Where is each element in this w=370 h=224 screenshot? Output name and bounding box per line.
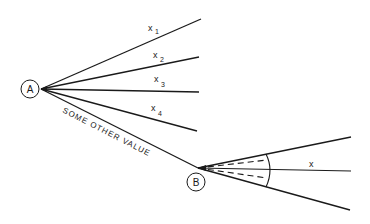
svg-text:1: 1 (155, 28, 159, 35)
svg-text:x: x (151, 103, 156, 113)
svg-text:x: x (153, 50, 158, 60)
svg-text:4: 4 (158, 110, 162, 117)
edge-a-to-b (41, 89, 198, 168)
svg-text:2: 2 (160, 56, 164, 63)
fan-arc (266, 154, 270, 187)
branch-x2 (41, 57, 199, 89)
node-a-label: A (27, 84, 34, 95)
svg-text:x: x (154, 74, 159, 84)
svg-text:x: x (148, 23, 153, 33)
svg-text:3: 3 (161, 81, 165, 88)
fan-from-b (198, 137, 351, 210)
fan-lower-bound (198, 168, 350, 210)
edge-a-to-b-label: SOME OTHER VALUE (61, 106, 152, 158)
branch-label-x2: x 2 (153, 50, 164, 63)
node-a: A (21, 80, 39, 98)
fan-center-x (198, 168, 351, 171)
branch-label-x4: x 4 (151, 103, 162, 117)
branch-label-x1: x 1 (148, 23, 159, 35)
fan-label-x: x (309, 159, 314, 169)
branches-from-a (41, 19, 201, 168)
fan-upper-bound (198, 137, 351, 168)
apex-b (198, 165, 206, 171)
branch-x1 (41, 19, 201, 89)
branch-x3 (41, 89, 199, 92)
decision-diagram: A x 1 x 2 x 3 x 4 SOME OTHER VALUE B (0, 0, 370, 224)
branch-label-x3: x 3 (154, 74, 165, 88)
node-b: B (187, 173, 205, 191)
node-b-label: B (193, 177, 200, 188)
